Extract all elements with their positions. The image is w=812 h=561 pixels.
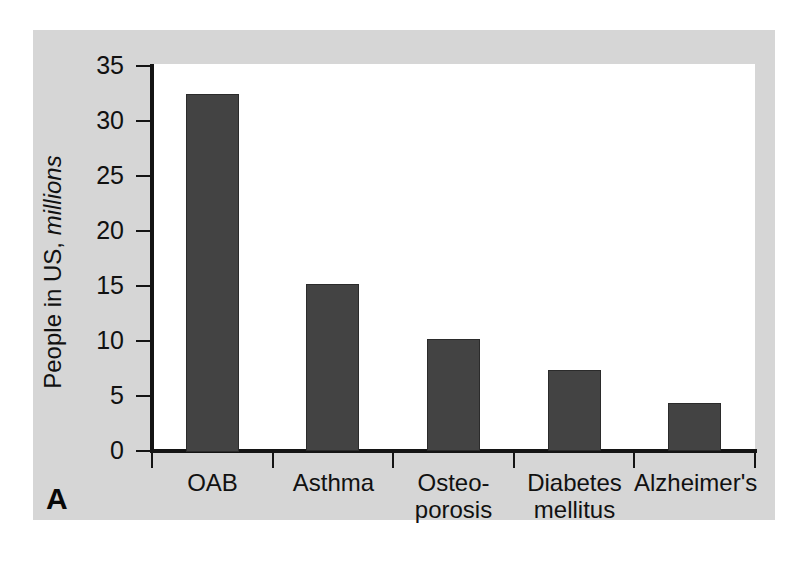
- x-tick-mark: [633, 452, 635, 468]
- panel-letter: A: [46, 484, 68, 514]
- x-axis-label-line: porosis: [393, 497, 514, 524]
- y-tick-mark: [136, 450, 151, 452]
- y-tick-label: 15: [78, 273, 124, 298]
- x-axis-label-line: mellitus: [514, 497, 635, 524]
- y-tick-mark: [136, 395, 151, 397]
- x-tick-mark: [754, 452, 756, 468]
- x-axis-label: OAB: [152, 470, 273, 497]
- x-axis-label-line: Alzheimer's: [634, 470, 755, 497]
- bar: [427, 339, 480, 451]
- x-axis-label-line: OAB: [152, 470, 273, 497]
- x-tick-mark: [272, 452, 274, 468]
- x-axis-label: Alzheimer's: [634, 470, 755, 497]
- y-tick-label: 30: [78, 108, 124, 133]
- x-axis-label: Asthma: [273, 470, 394, 497]
- y-tick-label: 35: [78, 53, 124, 78]
- y-tick-mark: [136, 340, 151, 342]
- y-tick-mark: [136, 65, 151, 67]
- x-axis-label-line: Osteo-: [393, 470, 514, 497]
- y-axis-title-plain: People in US,: [39, 242, 66, 389]
- y-tick-label: 10: [78, 328, 124, 353]
- bar: [186, 94, 239, 452]
- bar: [306, 284, 359, 451]
- y-tick-mark: [136, 230, 151, 232]
- y-tick-label: 0: [78, 438, 124, 463]
- bar: [548, 370, 601, 451]
- y-tick-label: 25: [78, 163, 124, 188]
- x-axis-label: Diabetesmellitus: [514, 470, 635, 524]
- x-axis-label: Osteo-porosis: [393, 470, 514, 524]
- y-tick-label: 20: [78, 218, 124, 243]
- x-axis-label-line: Diabetes: [514, 470, 635, 497]
- x-tick-mark: [392, 452, 394, 468]
- y-tick-mark: [136, 285, 151, 287]
- x-tick-mark: [513, 452, 515, 468]
- x-axis-label-line: Asthma: [273, 470, 394, 497]
- y-axis-line: [150, 64, 154, 451]
- y-axis-title-italic: millions: [39, 155, 66, 235]
- bar: [668, 403, 721, 451]
- figure-panel-a: 05101520253035 OABAsthmaOsteo-porosisDia…: [0, 0, 812, 561]
- y-tick-label: 5: [78, 383, 124, 408]
- x-tick-mark: [151, 452, 153, 468]
- y-axis-title: People in US, millions: [39, 122, 67, 422]
- y-tick-mark: [136, 175, 151, 177]
- y-tick-mark: [136, 120, 151, 122]
